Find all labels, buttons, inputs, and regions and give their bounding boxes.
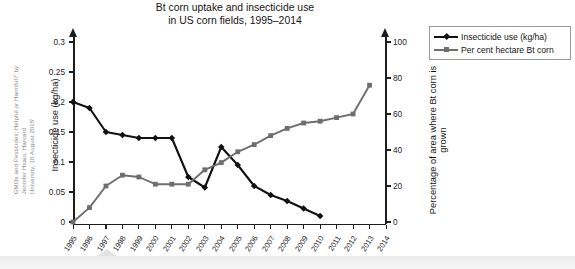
data-point-square [71,220,76,225]
legend-label-btcorn: Per cent hectare Bt corn [459,45,554,55]
legend-marker-diamond-icon [433,31,459,42]
data-point-square [186,182,191,187]
data-point-square [120,173,125,178]
data-point-square [318,119,323,124]
data-point-square [235,149,240,154]
data-point-diamond [317,213,324,220]
data-point-diamond [119,132,126,139]
data-point-square [153,182,158,187]
data-point-square [136,175,141,180]
legend-item-btcorn[interactable]: Per cent hectare Bt corn [433,43,566,56]
series-line-btcorn [73,85,370,222]
data-point-diamond [70,99,77,106]
data-point-square [367,83,372,88]
data-point-square [219,160,224,165]
data-point-square [268,133,273,138]
legend: Insecticide use (kg/ha) Per cent hectare… [429,26,571,60]
data-point-diamond [169,135,176,142]
legend-label-insecticide: Insecticide use (kg/ha) [459,32,547,42]
data-point-diamond [284,198,291,205]
legend-item-insecticide[interactable]: Insecticide use (kg/ha) [433,30,566,43]
data-point-diamond [152,135,159,142]
data-point-square [104,184,109,189]
footer-band [0,256,575,269]
data-point-square [285,126,290,131]
data-point-diamond [136,135,143,142]
data-point-square [301,121,306,126]
data-point-square [169,182,174,187]
data-point-square [351,112,356,117]
chart-root: GMOs and Pesticides: Helpful or Harmful?… [0,0,575,269]
data-point-square [202,167,207,172]
data-point-square [87,205,92,210]
legend-marker-square-icon [433,44,459,55]
data-point-square [252,142,257,147]
series-line-insecticide [73,102,320,216]
data-point-square [334,115,339,120]
data-point-diamond [300,205,307,212]
